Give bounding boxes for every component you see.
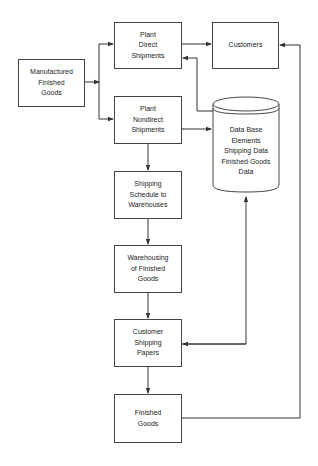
node-plant-nondirect-shipments: Plant Nondirect Shipments [114,96,182,144]
node-finished-goods: Finished Goods [114,394,182,443]
edge-db-direct [183,58,212,111]
shipping-flow-diagram: Manufactured Finished Goods Plant Direct… [0,0,318,466]
edge-papers-db [182,197,246,344]
node-customers: Customers [212,22,279,69]
node-manufactured-finished-goods: Manufactured Finished Goods [18,59,85,107]
node-shipping-schedule: Shipping Schedule to Warehouses [114,171,182,219]
node-warehousing: Warehousing of Finished Goods [114,245,182,293]
node-database-label: Data Base Elements Shipping Data Finishe… [213,125,279,178]
node-plant-direct-shipments: Plant Direct Shipments [114,22,182,69]
node-customer-shipping-papers: Customer Shipping Papers [114,319,182,367]
